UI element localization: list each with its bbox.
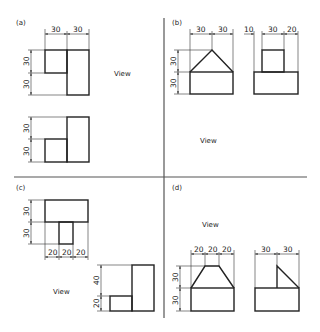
- view-d-side-base: [255, 288, 299, 311]
- dim-c2-left-2: 20: [92, 298, 101, 308]
- dim-b-top-1: 30: [196, 25, 206, 34]
- panel-label-d: (d): [172, 184, 182, 192]
- view-a2-right-block: [67, 117, 89, 162]
- view-b-front-roof: [190, 50, 233, 72]
- dim-a-top-1: 30: [51, 25, 61, 34]
- dim-d-top-3: 20: [222, 245, 232, 254]
- panel-label-b: (b): [172, 19, 182, 27]
- view-d-front-trapezoid: [191, 266, 234, 288]
- view-b-side-base: [254, 72, 298, 94]
- view-a1-left-block: [45, 50, 67, 73]
- dim-c1-bottom-2: 20: [62, 248, 72, 257]
- dim-d-side-1: 30: [261, 245, 271, 254]
- panel-label-c: (c): [16, 184, 26, 192]
- view-b-front-base: [190, 72, 233, 94]
- dim-c2-left-1: 40: [92, 275, 101, 285]
- view-c2-tall-block: [132, 265, 154, 311]
- view-label-a: View: [114, 70, 131, 78]
- view-d-front-base: [191, 288, 234, 311]
- dim-d-side-2: 30: [283, 245, 293, 254]
- view-a1-right-block: [67, 50, 89, 95]
- view-label-c: View: [53, 288, 70, 296]
- dim-c1-left-2: 30: [22, 228, 31, 238]
- view-label-d: View: [202, 221, 219, 229]
- dim-a1-left-2: 30: [22, 79, 31, 89]
- panel-label-a: (a): [16, 19, 26, 27]
- view-b-side-top-block: [262, 50, 284, 72]
- dim-c1-left-1: 30: [22, 206, 31, 216]
- dim-b-side-1: 10: [244, 25, 254, 34]
- dim-d-top-2: 20: [208, 245, 218, 254]
- dim-a2-left-2: 30: [22, 146, 31, 156]
- dim-b-left-1: 30: [169, 56, 178, 66]
- dim-a-top-2: 30: [73, 25, 83, 34]
- dim-b-left-2: 30: [169, 78, 178, 88]
- view-a2-left-block: [45, 139, 67, 162]
- panel-c: (c) 30 30 20 20 20 View 40 20: [16, 184, 154, 311]
- dim-c1-bottom-3: 20: [76, 248, 86, 257]
- view-label-b: View: [200, 137, 217, 145]
- view-d-side-wedge: [277, 266, 299, 288]
- dim-d-top-1: 20: [194, 245, 204, 254]
- view-c1-stem: [59, 222, 73, 244]
- dim-b-top-2: 30: [218, 25, 228, 34]
- panel-b: (b) 30 30 30 30 10 30 20 View: [169, 19, 298, 145]
- view-c1-top-block: [45, 200, 88, 222]
- dim-c1-bottom-1: 20: [48, 248, 58, 257]
- dim-a1-left-1: 30: [22, 56, 31, 66]
- dim-d-left-1: 30: [171, 272, 180, 282]
- dim-b-side-3: 20: [287, 25, 297, 34]
- view-c2-low-block: [110, 296, 132, 311]
- dim-d-left-2: 30: [171, 295, 180, 305]
- panel-d: (d) View 20 20 20 30 30 30 30: [171, 184, 299, 311]
- projection-diagram: (a) 30 30 30 30 View 30 30 (b): [0, 0, 320, 332]
- panel-a: (a) 30 30 30 30 View 30 30: [16, 19, 131, 162]
- dim-b-side-2: 30: [268, 25, 278, 34]
- dim-a2-left-1: 30: [22, 123, 31, 133]
